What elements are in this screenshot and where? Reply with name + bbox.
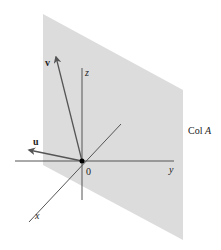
plane-label: Col A [188,125,212,136]
origin-label: 0 [86,166,91,177]
z-axis-label: z [84,67,89,78]
origin-dot [80,159,85,164]
column-space-plane [43,14,183,240]
plane-label-main: Col [188,125,205,136]
vector-v-label: v [45,57,50,68]
plane-label-variable: A [204,125,212,136]
column-space-diagram: v u z y x 0 Col A [0,0,221,250]
x-axis-label: x [34,210,40,221]
y-axis-label: y [168,164,174,175]
vector-u-label: u [33,136,39,147]
